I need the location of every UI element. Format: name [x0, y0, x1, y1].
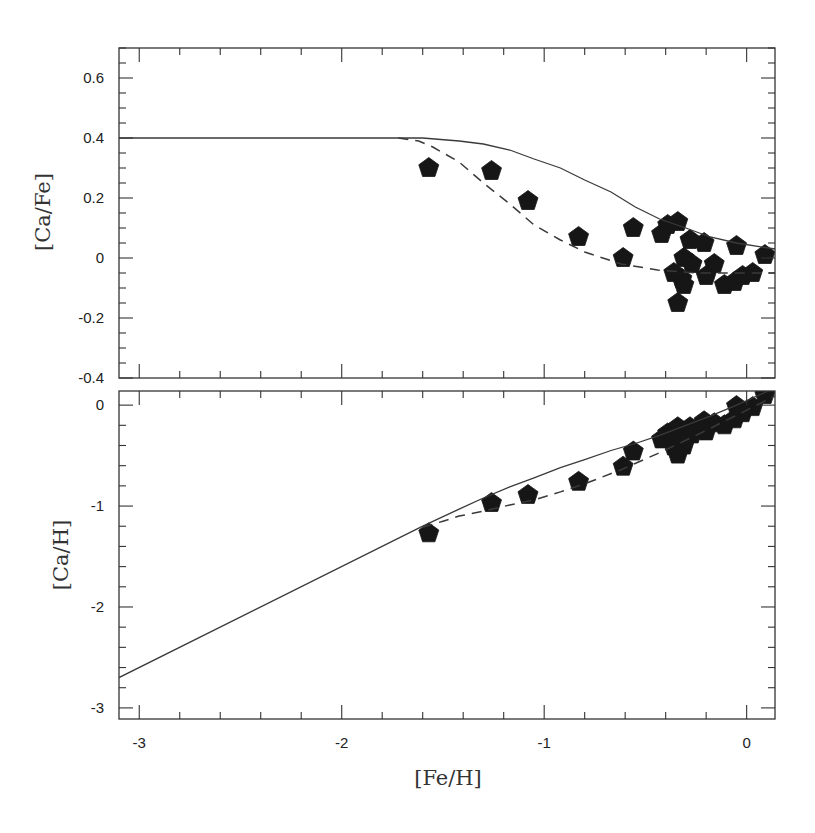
- data-point-marker: [569, 227, 589, 246]
- y-tick-label: -1: [91, 497, 104, 514]
- top-y-axis-label: [Ca/Fe]: [31, 173, 55, 251]
- bottom-y-axis-label: [Ca/H]: [49, 520, 73, 590]
- data-point-marker: [482, 161, 502, 180]
- y-tick-label: 0: [96, 396, 104, 413]
- x-tick-label: -3: [133, 734, 146, 751]
- y-tick-label: 0.2: [83, 189, 104, 206]
- data-point-marker: [668, 293, 688, 312]
- figure: 0.60.40.20-0.2-0.4 [Ca/Fe] 0-1-2-3-3-2-1…: [0, 0, 815, 833]
- model-curve-dashed: [398, 138, 775, 273]
- x-tick-label: -2: [335, 734, 348, 751]
- y-tick-label: 0.4: [83, 129, 104, 146]
- x-tick-label: 0: [742, 734, 750, 751]
- x-tick-label: -1: [538, 734, 551, 751]
- y-tick-label: -3: [91, 699, 104, 716]
- data-point-marker: [743, 263, 763, 282]
- data-point-marker: [518, 191, 538, 210]
- data-point-marker: [623, 218, 643, 237]
- data-point-marker: [727, 236, 747, 255]
- y-tick-label: -0.4: [78, 369, 104, 386]
- bottom-panel-ca-h: 0-1-2-3-3-2-10 [Ca/H]: [49, 385, 775, 752]
- y-tick-label: -0.2: [78, 309, 104, 326]
- top-panel-ca-fe: 0.60.40.20-0.2-0.4 [Ca/Fe]: [31, 48, 775, 386]
- model-curve-dashed: [423, 396, 775, 527]
- top-plot-area: [119, 138, 775, 312]
- data-point-marker: [419, 158, 439, 177]
- x-axis-label: [Fe/H]: [414, 766, 482, 790]
- y-tick-label: -2: [91, 598, 104, 615]
- y-tick-label: 0: [96, 249, 104, 266]
- y-tick-label: 0.6: [83, 69, 104, 86]
- bottom-plot-area: [119, 385, 775, 678]
